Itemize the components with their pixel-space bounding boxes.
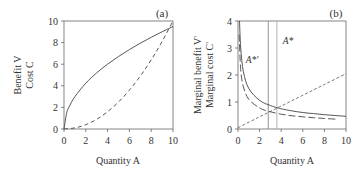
x-tick-label: 8	[149, 135, 154, 146]
y-tick-label: 0	[53, 124, 58, 135]
benefit-curve	[64, 27, 173, 130]
y-axis-label-b-2: Marginal cost C'	[204, 42, 215, 108]
marginal-benefit-alt-curve	[239, 35, 337, 120]
x-tick-label: 2	[257, 135, 262, 146]
x-tick-label: 4	[279, 135, 284, 146]
x-tick-label: 10	[341, 135, 351, 146]
y-axis-ticks-a: 0246810	[48, 16, 64, 135]
x-axis-label-b: Quantity A	[270, 155, 315, 166]
y-tick-label: 1	[227, 97, 232, 108]
y-tick-label: 10	[48, 16, 58, 27]
x-tick-label: 6	[127, 135, 132, 146]
y-tick-label: 2	[227, 70, 232, 81]
y-tick-label: 6	[53, 59, 58, 70]
x-axis-label-a: Quantity A	[96, 155, 141, 166]
y-tick-label: 8	[53, 37, 58, 48]
x-tick-label: 4	[105, 135, 110, 146]
y-axis-label-a-2: Cost C	[24, 61, 35, 89]
x-tick-label: 0	[236, 135, 241, 146]
y-axis-ticks-b: 01234	[227, 16, 238, 135]
x-tick-label: 0	[62, 135, 67, 146]
x-tick-label: 2	[83, 135, 88, 146]
cost-curve	[64, 21, 173, 129]
x-tick-label: 10	[168, 135, 178, 146]
figure: 0246810 0246810 (a) Quantity A Benefit V…	[0, 0, 363, 179]
x-tick-label: 8	[322, 135, 327, 146]
y-tick-label: 2	[53, 102, 58, 113]
panel-label-a: (a)	[156, 7, 169, 20]
plot-frame-a	[64, 21, 173, 129]
a-star-label: A*	[282, 36, 294, 46]
panel-b-chart: 01234 0246810 A*' A* (b) Quantity A Marg…	[192, 7, 351, 166]
y-axis-label-a-1: Benefit V	[12, 55, 23, 95]
y-tick-label: 4	[227, 16, 232, 27]
marginal-cost-curve	[238, 74, 346, 128]
y-tick-label: 3	[227, 43, 232, 54]
x-tick-label: 6	[300, 135, 305, 146]
x-axis-ticks-a: 0246810	[62, 129, 179, 146]
y-tick-label: 4	[53, 80, 58, 91]
y-axis-label-b-1: Marginal benefit V'	[192, 36, 203, 114]
a-star-prime-label: A*'	[245, 55, 260, 65]
panel-label-b: (b)	[330, 7, 343, 20]
y-tick-label: 0	[227, 124, 232, 135]
panel-a-chart: 0246810 0246810 (a) Quantity A Benefit V…	[12, 7, 178, 166]
x-axis-ticks-b: 0246810	[236, 129, 352, 146]
